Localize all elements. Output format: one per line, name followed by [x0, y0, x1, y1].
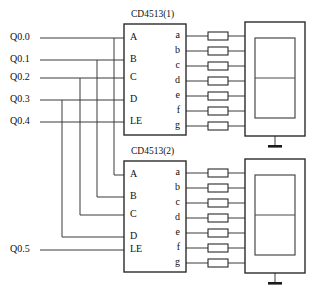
chip1-output-pin-c: c [176, 59, 181, 70]
chip2-output-pin-f: f [177, 241, 181, 252]
signal-label-Q0-3: Q0.3 [10, 93, 30, 104]
signal-label-Q0-0: Q0.0 [10, 31, 30, 42]
chip1-input-pin-c: C [130, 71, 137, 82]
resistor-d-chip2 [208, 214, 228, 222]
resistor-f-chip1 [208, 107, 228, 115]
seven-segment-display-2-ground-symbol [268, 282, 282, 285]
resistor-c-chip1 [208, 62, 228, 70]
chip1-input-pin-le: LE [130, 115, 142, 126]
chip1-output-pin-e: e [176, 89, 181, 100]
chip1-input-pin-a: A [130, 31, 138, 42]
chip-label-1: CD4513(1) [131, 9, 174, 20]
chip1-output-pin-b: b [175, 44, 180, 55]
chip2-output-pin-e: e [176, 226, 181, 237]
resistor-b-chip2 [208, 184, 228, 192]
resistor-a-chip2 [208, 169, 228, 177]
chip2-input-pin-b: B [130, 190, 137, 201]
chip1-input-pin-d: D [130, 93, 137, 104]
chip2-input-pin-a: A [130, 168, 138, 179]
chip1-output-pin-d: d [175, 74, 180, 85]
signal-label-Q0-5: Q0.5 [10, 243, 30, 254]
resistor-f-chip2 [208, 244, 228, 252]
seven-segment-display-1-ground-symbol [268, 145, 282, 148]
resistor-b-chip1 [208, 47, 228, 55]
wire-layer [40, 36, 275, 282]
chip1-input-pin-b: B [130, 53, 137, 64]
resistor-a-chip1 [208, 32, 228, 40]
seven-segment-display-1-body [245, 22, 305, 136]
chip2-input-pin-le: LE [130, 243, 142, 254]
circuit-schematic: Q0.0Q0.1Q0.2Q0.3Q0.4Q0.5CD4513(1)ABCDLEa… [0, 0, 320, 294]
resistor-g-chip1 [208, 122, 228, 130]
chip-label-2: CD4513(2) [131, 146, 174, 157]
chip1-output-pin-g: g [175, 119, 180, 130]
circuit-diagram-canvas: Q0.0Q0.1Q0.2Q0.3Q0.4Q0.5CD4513(1)ABCDLEa… [0, 0, 320, 294]
chip2-output-pin-g: g [175, 256, 180, 267]
chip2-output-pin-a: a [176, 166, 181, 177]
chip2-input-pin-d: D [130, 230, 137, 241]
chip2-output-pin-b: b [175, 181, 180, 192]
resistor-g-chip2 [208, 259, 228, 267]
chip1-output-pin-a: a [176, 29, 181, 40]
chip2-output-pin-c: c [176, 196, 181, 207]
signal-label-Q0-1: Q0.1 [10, 53, 30, 64]
resistor-c-chip2 [208, 199, 228, 207]
chip2-input-pin-c: C [130, 208, 137, 219]
seven-segment-display-2-body [245, 159, 305, 273]
signal-label-Q0-2: Q0.2 [10, 71, 30, 82]
resistor-e-chip1 [208, 92, 228, 100]
label-layer: Q0.0Q0.1Q0.2Q0.3Q0.4Q0.5CD4513(1)ABCDLEa… [10, 9, 181, 267]
signal-label-Q0-4: Q0.4 [10, 115, 30, 126]
resistor-e-chip2 [208, 229, 228, 237]
chip1-output-pin-f: f [177, 104, 181, 115]
resistor-d-chip1 [208, 77, 228, 85]
chip2-output-pin-d: d [175, 211, 180, 222]
